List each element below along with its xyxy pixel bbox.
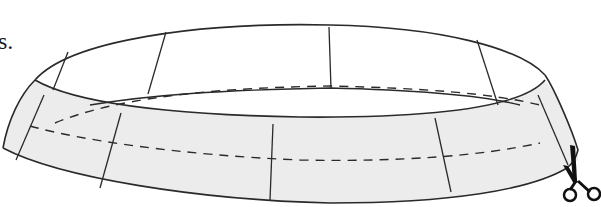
rim-inner-back <box>90 88 520 105</box>
panel-divider <box>148 32 166 94</box>
panel-divider <box>53 52 68 90</box>
rim-top-back <box>35 25 545 80</box>
panel-divider <box>329 27 331 89</box>
ring-band-diagram <box>0 0 601 207</box>
